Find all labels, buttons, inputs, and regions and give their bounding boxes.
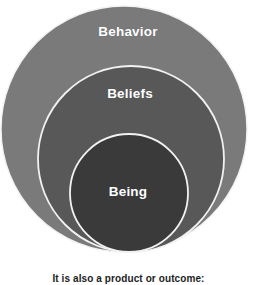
circle-label-behavior: Behavior [98, 24, 157, 39]
diagram-caption: It is also a product or outcome: [0, 272, 257, 285]
circle-label-beliefs: Beliefs [107, 86, 153, 101]
nested-circles-diagram: Behavior Beliefs Being [0, 0, 257, 285]
circle-label-being: Being [109, 184, 148, 199]
venn-circles-svg [0, 0, 257, 285]
